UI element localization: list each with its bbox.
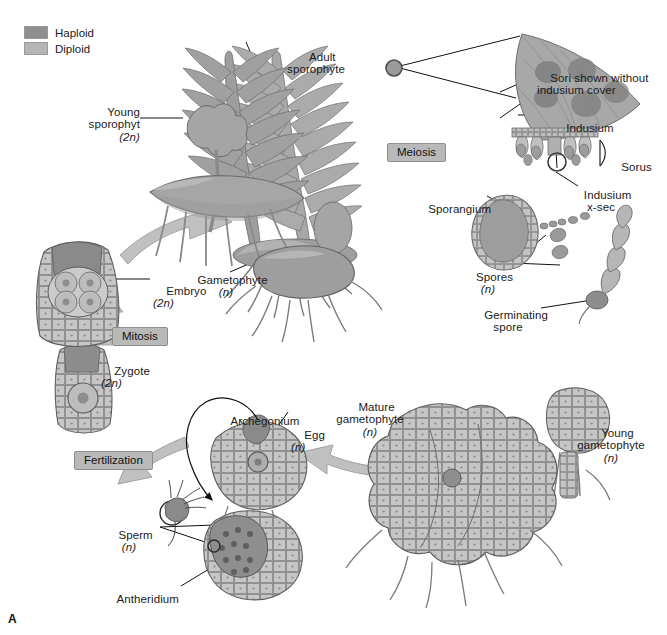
process-box-meiosis: Meiosis [387,143,446,162]
label-mature-gametophyte: Maturegametophyte(n) [320,388,420,451]
label-indusium: Indusium [553,109,614,147]
process-box-mitosis: Mitosis [112,327,168,346]
label-adult-sporophyte: Adultsporophyte [268,38,364,88]
label-young-sporophyte: Youngsporophyt(2n) [48,93,140,156]
legend-item-haploid: Haploid [24,26,94,39]
label-egg: Egg(n) [291,416,325,466]
label-young-gametophyte: Younggametophyte(n) [565,414,657,477]
embryo-illustration [37,242,119,347]
legend-label-haploid: Haploid [55,27,94,39]
antheridium-illustration [204,511,303,600]
label-sporangium: Sporangium [415,190,487,228]
legend-label-diploid: Diploid [55,43,90,55]
label-antheridium: Antheridium [104,580,179,618]
label-archegonium: Archegonium [218,402,299,440]
legend-swatch-haploid [24,26,48,39]
label-sori: Sori shown withoutindusium cover [537,59,649,109]
legend-item-diploid: Diploid [24,42,94,55]
legend: Haploid Diploid [24,26,94,58]
legend-swatch-diploid [24,42,48,55]
panel-letter: A [8,612,17,626]
label-indusium-xsec: Indusiumx-sec [565,176,637,226]
label-zygote: Zygote(2n) [101,352,150,402]
label-sperm: Sperm(n) [100,516,158,566]
figure-canvas: Haploid Diploid Meiosis Mitosis Fertiliz… [0,0,667,635]
process-box-fertilization: Fertilization [74,451,153,470]
label-germinating-spore: Germinatingspore [471,296,545,346]
label-gametophyte: Gametophyte(n) [178,261,274,311]
